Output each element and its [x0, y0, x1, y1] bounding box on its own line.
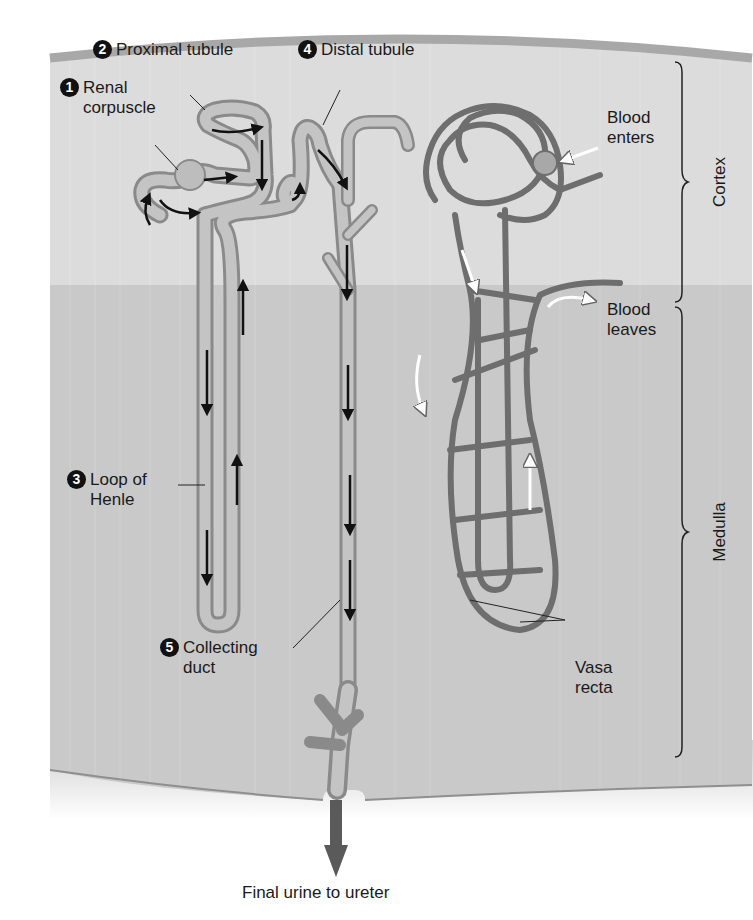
label-vasa-recta: Vasa recta [575, 658, 613, 698]
number-badge: 1 [60, 78, 79, 97]
ureter-arrow-head [324, 845, 348, 877]
caption-final-urine: Final urine to ureter [242, 883, 389, 903]
label-blood-enters: Blood enters [607, 108, 654, 148]
label-proximal-tubule: 2Proximal tubule [93, 40, 233, 60]
label-renal-corpuscle: 1Renal corpuscle [60, 78, 156, 118]
label-blood-leaves: Blood leaves [607, 300, 656, 340]
region-label-cortex: Cortex [710, 142, 730, 222]
number-badge: 4 [298, 40, 317, 59]
region-label-medulla: Medulla [710, 492, 730, 572]
ureter-arrow-shaft [330, 800, 342, 845]
label-loop-of-henle: 3Loop of Henle [67, 470, 147, 510]
number-badge: 5 [160, 638, 179, 657]
label-distal-tubule: 4Distal tubule [298, 40, 415, 60]
label-collecting-duct: 5Collecting duct [160, 638, 258, 678]
nephron-diagram: 1Renal corpuscle 2Proximal tubule 4Dista… [0, 0, 753, 920]
number-badge: 3 [67, 470, 86, 489]
number-badge: 2 [93, 40, 112, 59]
